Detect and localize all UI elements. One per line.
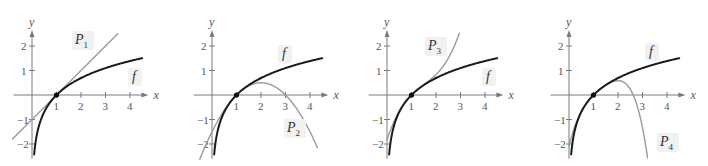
p-subscript: 2 xyxy=(296,128,301,138)
x-tick-label: 4 xyxy=(482,100,488,112)
point-of-tangency xyxy=(591,92,596,97)
x-axis-arrow-icon xyxy=(678,93,685,98)
x-axis-label: x xyxy=(152,88,159,102)
x-axis-label: x xyxy=(507,88,514,102)
y-tick-label: −1 xyxy=(197,114,209,126)
y-tick-label: 2 xyxy=(376,40,382,52)
x-tick-label: 2 xyxy=(615,100,621,112)
graph-panel-p1: xy123421−1−2P1f xyxy=(12,15,159,159)
x-tick-label: 3 xyxy=(458,100,464,112)
x-axis-label: x xyxy=(332,88,339,102)
y-tick-label: 2 xyxy=(201,40,207,52)
y-tick-label: −1 xyxy=(554,114,566,126)
x-tick-label: 1 xyxy=(591,100,597,112)
y-tick-label: 1 xyxy=(201,65,207,77)
y-tick-label: −2 xyxy=(554,138,566,150)
x-axis-arrow-icon xyxy=(141,93,148,98)
x-tick-label: 3 xyxy=(283,100,289,112)
graph-panel-p2: xy123421−1−2P2f xyxy=(194,15,340,159)
x-tick-label: 1 xyxy=(234,100,240,112)
x-tick-label: 2 xyxy=(78,100,84,112)
y-axis-arrow-icon xyxy=(30,30,35,37)
x-axis-label: x xyxy=(689,88,696,102)
point-of-tangency xyxy=(409,92,414,97)
y-axis-label: y xyxy=(208,15,215,29)
y-tick-label: 1 xyxy=(558,65,564,77)
y-axis-label: y xyxy=(565,15,572,29)
x-tick-label: 1 xyxy=(409,100,415,112)
p-subscript: 1 xyxy=(84,40,89,50)
y-axis-label: y xyxy=(28,15,35,29)
x-tick-label: 2 xyxy=(433,100,439,112)
y-axis-arrow-icon xyxy=(567,30,572,37)
p-subscript: 4 xyxy=(669,142,674,152)
y-axis-arrow-icon xyxy=(210,30,215,37)
y-tick-label: −2 xyxy=(372,138,384,150)
taylor-polynomial-figure: xy123421−1−2P1f xy123421−1−2P2f xy123421… xyxy=(0,0,708,166)
y-axis-label: y xyxy=(383,15,390,29)
graph-panel-p3: xy123421−1−2P3f xyxy=(369,15,515,159)
y-tick-label: −2 xyxy=(17,138,29,150)
x-tick-label: 2 xyxy=(258,100,264,112)
y-tick-label: 2 xyxy=(21,40,27,52)
y-tick-label: 1 xyxy=(21,65,27,77)
x-axis-arrow-icon xyxy=(321,93,328,98)
point-of-tangency xyxy=(54,92,59,97)
y-tick-label: 2 xyxy=(558,40,564,52)
x-tick-label: 1 xyxy=(54,100,60,112)
p-subscript: 3 xyxy=(437,46,442,56)
x-tick-label: 4 xyxy=(664,100,670,112)
x-tick-label: 4 xyxy=(127,100,133,112)
y-tick-label: 1 xyxy=(376,65,382,77)
graph-panel-p4: xy123421−1−2P4f xyxy=(551,15,697,159)
y-tick-label: −1 xyxy=(372,114,384,126)
x-tick-label: 4 xyxy=(307,100,313,112)
x-axis-arrow-icon xyxy=(496,93,503,98)
point-of-tangency xyxy=(234,92,239,97)
y-axis-arrow-icon xyxy=(385,30,390,37)
x-tick-label: 3 xyxy=(103,100,109,112)
taylor-polynomial-curve-p4 xyxy=(569,81,648,158)
x-tick-label: 3 xyxy=(640,100,646,112)
